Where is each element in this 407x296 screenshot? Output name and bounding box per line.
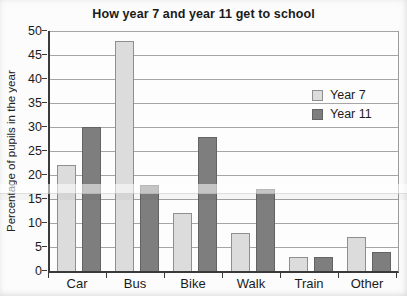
bar-year11-car (82, 127, 101, 271)
chart-figure: How year 7 and year 11 get to school Per… (0, 0, 407, 296)
y-tick-mark-10 (42, 222, 47, 223)
x-tick-mark-4 (280, 273, 281, 278)
gridline-45 (50, 55, 398, 56)
bar-year7-car (57, 165, 76, 271)
y-tick-label-10: 10 (12, 217, 42, 229)
x-tick-mark-0 (48, 273, 49, 278)
gridline-50 (50, 31, 398, 32)
x-axis-label-car: Car (48, 276, 106, 292)
y-tick-label-45: 45 (12, 49, 42, 61)
bar-year11-bus (140, 185, 159, 271)
gridline-40 (50, 79, 398, 80)
x-tick-mark-2 (164, 273, 165, 278)
gridline-5 (50, 247, 398, 248)
y-tick-label-40: 40 (12, 73, 42, 85)
y-tick-mark-20 (42, 174, 47, 175)
y-tick-label-20: 20 (12, 169, 42, 181)
bar-year11-train (314, 257, 333, 271)
y-tick-label-30: 30 (12, 121, 42, 133)
legend: Year 7 Year 11 (312, 89, 372, 120)
y-tick-label-35: 35 (12, 97, 42, 109)
bar-year11-other (372, 252, 391, 271)
y-tick-mark-25 (42, 150, 47, 151)
y-tick-label-15: 15 (12, 193, 42, 205)
legend-item-year11: Year 11 (312, 108, 372, 120)
gridline-15 (50, 199, 398, 200)
y-tick-mark-45 (42, 54, 47, 55)
y-tick-label-50: 50 (12, 25, 42, 37)
y-tick-label-0: 0 (12, 265, 42, 277)
bar-year7-other (347, 237, 366, 271)
gridline-30 (50, 127, 398, 128)
y-tick-mark-15 (42, 198, 47, 199)
bar-year7-bike (173, 213, 192, 271)
y-tick-label-5: 5 (12, 241, 42, 253)
y-tick-mark-40 (42, 78, 47, 79)
x-axis-label-bike: Bike (164, 276, 222, 292)
x-tick-mark-1 (106, 273, 107, 278)
y-tick-mark-30 (42, 126, 47, 127)
y-tick-label-25: 25 (12, 145, 42, 157)
legend-label-year11: Year 11 (330, 107, 372, 121)
gridline-20 (50, 175, 398, 176)
bar-year7-train (289, 257, 308, 271)
bar-year11-bike (198, 137, 217, 271)
x-tick-mark-5 (338, 273, 339, 278)
legend-label-year7: Year 7 (330, 88, 366, 102)
bar-year7-walk (231, 233, 250, 271)
plot-area (48, 31, 399, 273)
year7-swatch-icon (312, 90, 323, 101)
gridline-25 (50, 151, 398, 152)
y-tick-mark-5 (42, 246, 47, 247)
bar-year11-walk (256, 189, 275, 271)
x-tick-mark-3 (222, 273, 223, 278)
y-tick-mark-35 (42, 102, 47, 103)
legend-item-year7: Year 7 (312, 89, 372, 101)
x-axis-label-other: Other (338, 276, 396, 292)
x-tick-mark-6 (396, 273, 397, 278)
y-tick-mark-50 (42, 30, 47, 31)
gridline-10 (50, 223, 398, 224)
bar-year7-bus (115, 41, 134, 271)
x-axis-label-bus: Bus (106, 276, 164, 292)
x-axis-label-train: Train (280, 276, 338, 292)
year11-swatch-icon (312, 109, 323, 120)
y-tick-mark-0 (42, 270, 47, 271)
x-axis-label-walk: Walk (222, 276, 280, 292)
chart-title: How year 7 and year 11 get to school (0, 7, 407, 21)
